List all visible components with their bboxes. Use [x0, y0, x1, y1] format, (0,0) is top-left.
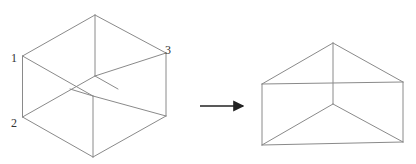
cube-edge	[95, 76, 118, 89]
cube-edge	[93, 116, 166, 157]
vertex-label-1: 1	[11, 51, 17, 65]
diagram-canvas: 1 2 3	[0, 0, 416, 164]
prism-edge	[333, 43, 403, 82]
cube-edge	[95, 53, 166, 76]
cube-edge	[93, 96, 166, 116]
prism-edge	[333, 104, 403, 142]
cube-edge	[95, 15, 166, 53]
vertex-label-2: 2	[11, 116, 17, 130]
cube-edge	[23, 56, 94, 96]
cube: 1 2 3	[11, 15, 171, 157]
triangular-prism	[262, 43, 403, 145]
prism-edge	[262, 104, 333, 145]
prism-edge	[262, 142, 403, 145]
prism-edge	[262, 43, 333, 84]
cube-edge	[23, 15, 96, 56]
cube-edge	[23, 76, 96, 117]
vertex-label-3: 3	[165, 43, 171, 57]
cube-edge	[23, 117, 94, 157]
